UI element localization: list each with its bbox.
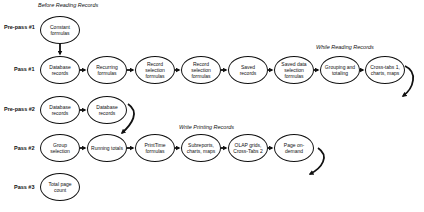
node-constant-formulas: Constant formulas xyxy=(40,16,80,44)
node-subreports-charts-maps: Subreports, charts, maps xyxy=(181,134,221,162)
node-total-page-count: Total page count xyxy=(40,173,80,201)
node-saved-data-selection-formulas: Saved data selection formulas xyxy=(274,56,314,84)
node-record-selection-formulas-2: Record selection formulas xyxy=(181,56,221,84)
node-database-records-pp2-2: Database records xyxy=(87,96,127,124)
node-group-selection: Group selection xyxy=(40,134,80,162)
node-database-records: Database records xyxy=(40,56,80,84)
node-olap-grids-cross-tabs: OLAP grids, Cross-Tabs 2 xyxy=(228,134,268,162)
node-running-totals: Running totals xyxy=(87,134,127,162)
node-grouping-and-totaling: Grouping and totaling xyxy=(320,56,360,84)
node-printtime-formulas: PrintTime formulas xyxy=(135,134,175,162)
node-saved-records: Saved records xyxy=(228,56,268,84)
node-database-records-pp2-1: Database records xyxy=(40,96,80,124)
node-cross-tabs-charts-maps: Cross-tabs 1, charts, maps xyxy=(365,56,405,84)
node-recurring-formulas: Recurring formulas xyxy=(87,56,127,84)
node-record-selection-formulas-1: Record selection formulas xyxy=(135,56,175,84)
node-page-on-demand: Page on-demand xyxy=(274,134,314,162)
